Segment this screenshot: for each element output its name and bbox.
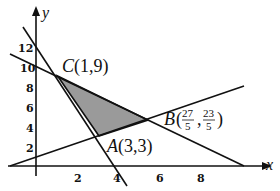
- y-tick: 12: [18, 42, 33, 55]
- point-b-label: B ( 27 5 , 23 5 ): [164, 107, 223, 132]
- feasible-region-diagram: x y 2 4 6 8 2 4 6 8 10 12 C(1,9) A(3,3) …: [0, 0, 280, 191]
- y-axis-arrow: [32, 6, 40, 16]
- y-tick: 6: [26, 102, 34, 115]
- svg-text:): ): [217, 109, 223, 130]
- x-axis-label: x: [265, 156, 273, 173]
- svg-text:B: B: [164, 109, 175, 129]
- x-tick: 8: [197, 172, 205, 185]
- y-tick: 4: [26, 122, 34, 135]
- x-tick: 4: [113, 172, 121, 185]
- y-tick: 10: [20, 62, 36, 75]
- y-tick: 8: [26, 82, 34, 95]
- svg-text:5: 5: [206, 120, 212, 132]
- x-tick: 6: [156, 172, 164, 185]
- y-axis-label: y: [40, 4, 50, 22]
- svg-text:23: 23: [203, 107, 215, 119]
- svg-text:5: 5: [185, 120, 191, 132]
- x-tick: 2: [74, 172, 82, 185]
- point-c-label: C(1,9): [62, 56, 109, 77]
- svg-text:27: 27: [182, 107, 194, 119]
- feasible-region: [58, 76, 148, 136]
- point-a-label: A(3,3): [106, 136, 153, 157]
- y-tick: 2: [26, 142, 34, 155]
- svg-text:,: ,: [197, 109, 202, 129]
